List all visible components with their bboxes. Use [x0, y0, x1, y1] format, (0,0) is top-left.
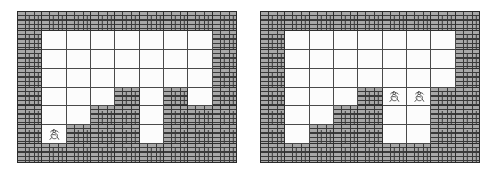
floor-tile — [140, 125, 164, 144]
brick-tile — [334, 144, 358, 163]
scene-stage — [0, 0, 497, 175]
floor-tile — [91, 69, 115, 88]
brick-tile — [213, 50, 237, 69]
floor-tile — [285, 106, 309, 125]
floor-tile — [407, 31, 431, 50]
brick-tile — [188, 106, 212, 125]
floor-tile — [42, 31, 66, 50]
floor-tile — [383, 106, 407, 125]
floor-tile — [407, 106, 431, 125]
brick-tile — [140, 144, 164, 163]
floor-tile — [188, 69, 212, 88]
floor-tile — [67, 31, 91, 50]
brick-tile — [431, 12, 455, 31]
floor-tile — [67, 88, 91, 107]
floor-tile — [358, 50, 382, 69]
floor-tile — [115, 31, 139, 50]
brick-tile — [358, 125, 382, 144]
brick-tile — [285, 144, 309, 163]
brick-tile — [261, 69, 285, 88]
floor-tile — [91, 88, 115, 107]
brick-tile — [188, 12, 212, 31]
brick-tile — [456, 144, 480, 163]
floor-tile — [334, 31, 358, 50]
agent-figure-a-icon — [383, 88, 406, 106]
brick-tile — [42, 144, 66, 163]
floor-tile — [164, 31, 188, 50]
brick-tile — [164, 144, 188, 163]
brick-tile — [18, 106, 42, 125]
floor-tile — [91, 31, 115, 50]
brick-tile — [431, 144, 455, 163]
floor-tile — [407, 125, 431, 144]
floor-tile — [334, 69, 358, 88]
brick-tile — [310, 144, 334, 163]
brick-tile — [310, 125, 334, 144]
brick-tile — [358, 144, 382, 163]
brick-tile — [261, 144, 285, 163]
agent-figure-icon — [42, 125, 65, 143]
floor-tile — [188, 31, 212, 50]
floor-tile — [358, 69, 382, 88]
floor-tile — [310, 69, 334, 88]
brick-tile — [115, 125, 139, 144]
brick-tile — [164, 125, 188, 144]
brick-tile — [456, 69, 480, 88]
brick-tile — [261, 12, 285, 31]
brick-tile — [334, 12, 358, 31]
brick-tile — [456, 50, 480, 69]
brick-tile — [164, 88, 188, 107]
floor-tile — [383, 69, 407, 88]
brick-tile — [67, 144, 91, 163]
floor-tile — [334, 88, 358, 107]
floor-tile — [285, 88, 309, 107]
floor-tile — [140, 31, 164, 50]
brick-tile — [213, 31, 237, 50]
floor-tile — [285, 69, 309, 88]
floor-tile — [285, 31, 309, 50]
brick-tile — [456, 106, 480, 125]
brick-tile — [261, 50, 285, 69]
floor-tile — [407, 50, 431, 69]
brick-tile — [431, 125, 455, 144]
brick-tile — [18, 69, 42, 88]
floor-tile — [42, 50, 66, 69]
brick-tile — [358, 106, 382, 125]
floor-tile — [188, 50, 212, 69]
brick-tile — [310, 12, 334, 31]
brick-tile — [213, 12, 237, 31]
agent-tile — [407, 88, 431, 107]
floor-tile — [115, 69, 139, 88]
brick-tile — [285, 12, 309, 31]
floor-tile — [67, 50, 91, 69]
brick-tile — [91, 125, 115, 144]
brick-tile — [431, 106, 455, 125]
floor-tile — [140, 50, 164, 69]
right-grid — [260, 11, 480, 163]
brick-tile — [456, 31, 480, 50]
brick-tile — [213, 88, 237, 107]
brick-tile — [334, 106, 358, 125]
floor-tile — [164, 50, 188, 69]
floor-tile — [310, 31, 334, 50]
agent-tile — [383, 88, 407, 107]
brick-tile — [18, 50, 42, 69]
brick-tile — [456, 125, 480, 144]
floor-tile — [431, 69, 455, 88]
agent-tile — [42, 125, 66, 144]
floor-tile — [358, 31, 382, 50]
brick-tile — [91, 106, 115, 125]
brick-tile — [115, 88, 139, 107]
brick-tile — [383, 12, 407, 31]
brick-tile — [18, 125, 42, 144]
floor-tile — [383, 125, 407, 144]
brick-tile — [188, 125, 212, 144]
floor-tile — [91, 50, 115, 69]
floor-tile — [431, 31, 455, 50]
brick-tile — [164, 12, 188, 31]
brick-tile — [115, 144, 139, 163]
brick-tile — [456, 88, 480, 107]
brick-tile — [261, 125, 285, 144]
brick-tile — [188, 144, 212, 163]
right-grid-cells — [260, 11, 480, 163]
